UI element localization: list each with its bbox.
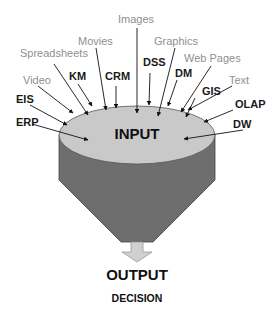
funnel-diagram: Images Movies Graphics Spreadsheets Web …	[0, 0, 274, 319]
label-video: Video	[23, 74, 51, 86]
label-gis: GIS	[202, 85, 221, 97]
label-dm: DM	[175, 67, 192, 79]
label-eis: EIS	[16, 93, 34, 105]
label-web-pages: Web Pages	[184, 52, 241, 64]
output-arrow-icon	[122, 242, 152, 262]
label-images: Images	[118, 13, 155, 25]
input-label: INPUT	[115, 125, 160, 142]
label-olap: OLAP	[235, 98, 266, 110]
label-dw: DW	[233, 118, 252, 130]
label-text: Text	[229, 74, 249, 86]
label-spreadsheets: Spreadsheets	[20, 47, 88, 59]
label-km: KM	[69, 70, 86, 82]
label-graphics: Graphics	[154, 35, 199, 47]
output-label: OUTPUT	[106, 266, 168, 283]
label-erp: ERP	[16, 116, 39, 128]
decision-label: DECISION	[112, 292, 163, 304]
label-movies: Movies	[78, 35, 113, 47]
label-dss: DSS	[143, 56, 166, 68]
label-crm: CRM	[105, 70, 130, 82]
